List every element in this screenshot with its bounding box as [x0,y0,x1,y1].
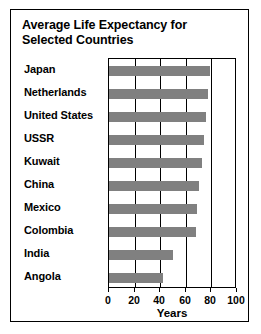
chart-title-line-1: Average Life Expectancy for [22,18,222,33]
chart-title-line-2: Selected Countries [22,33,222,48]
bar [109,227,196,237]
x-tick-label: 20 [128,294,140,306]
category-label-china: China [12,178,108,190]
category-label-ussr: USSR [12,132,108,144]
x-axis-title: Years [108,307,236,319]
bar-row [109,220,235,243]
bar [109,273,163,283]
bar-row [109,174,235,197]
category-label-mexico: Mexico [12,201,108,213]
x-tick-mark [134,288,135,292]
bar [109,250,173,260]
x-tick-mark [210,288,211,292]
bar-row [109,82,235,105]
x-tick-mark [108,288,109,292]
x-tick-label: 100 [227,294,245,306]
bar [109,112,206,122]
bar-row [109,59,235,82]
x-tick-mark [159,288,160,292]
category-label-kuwait: Kuwait [12,155,108,167]
category-label-united-states: United States [12,109,108,121]
x-tick-label: 60 [179,294,191,306]
bar-row [109,243,235,266]
bar-row [109,128,235,151]
bar [109,89,208,99]
bar-row [109,266,235,289]
x-tick-label: 0 [105,294,111,306]
x-tick-label: 40 [153,294,165,306]
category-label-india: India [12,247,108,259]
category-label-netherlands: Netherlands [12,86,108,98]
bar-rows [109,59,235,287]
bar-row [109,151,235,174]
x-tick-mark [236,288,237,292]
category-label-angola: Angola [12,270,108,282]
chart-figure: Average Life Expectancy for Selected Cou… [0,0,261,334]
x-tick-label: 80 [204,294,216,306]
bar [109,66,210,76]
bar [109,181,199,191]
category-label-japan: Japan [12,63,108,75]
category-label-colombia: Colombia [12,224,108,236]
chart-title: Average Life Expectancy for Selected Cou… [22,18,222,48]
bar [109,135,204,145]
x-tick-mark [185,288,186,292]
bar [109,204,197,214]
bar-row [109,197,235,220]
plot-area [108,58,236,288]
bar [109,158,202,168]
bar-row [109,105,235,128]
